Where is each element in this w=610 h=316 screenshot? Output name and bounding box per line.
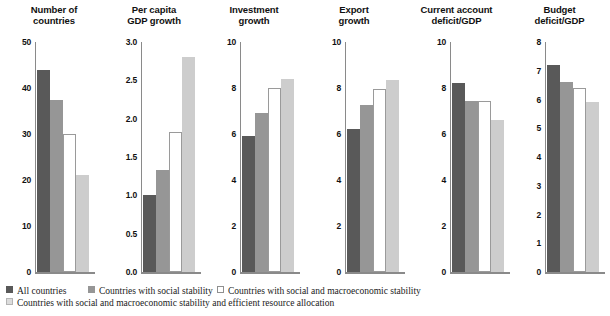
bar (76, 175, 89, 272)
y-axis-tick-label: 4 (315, 175, 341, 185)
bar (255, 113, 268, 272)
chart-panel: Exportgrowth0246810 (304, 0, 404, 280)
y-axis-tick-label: 2 (515, 210, 541, 220)
plot-area: 0246810 (204, 0, 304, 280)
legend-label: Countries with social and macroeconomic … (228, 285, 421, 297)
y-axis-tick-label: 20 (5, 175, 31, 185)
y-axis-tick-label: 40 (5, 83, 31, 93)
chart-panel: Current accountdeficit/GDP0246810 (404, 0, 509, 280)
legend-row: All countriesCountries with social stabi… (6, 284, 606, 296)
bar (452, 83, 465, 272)
y-axis-tick-label: 0.5 (111, 229, 137, 239)
bar (373, 89, 386, 272)
chart-panel: Per capitaGDP growth0.00.51.01.52.02.53.… (104, 0, 204, 280)
legend-item[interactable]: Countries with social stability (88, 284, 213, 297)
y-axis-tick-label: 30 (5, 129, 31, 139)
bar (560, 82, 573, 272)
legend-swatch-icon (6, 286, 13, 293)
plot-area: 0246810 (304, 0, 404, 280)
y-axis-tick-label: 2.5 (111, 75, 137, 85)
y-axis-tick-label: 0 (210, 267, 236, 277)
y-axis-tick-label: 10 (315, 37, 341, 47)
y-axis-tick-label: 5 (515, 123, 541, 133)
chart-panel: Investmentgrowth0246810 (204, 0, 304, 280)
legend-label: Countries with social stability (99, 285, 213, 297)
y-axis-tick-label: 6 (315, 129, 341, 139)
bar (491, 120, 504, 272)
bar (465, 101, 478, 272)
plot-area: 012345678 (509, 0, 610, 280)
bar (281, 79, 294, 272)
bar (547, 65, 560, 272)
bar (63, 134, 76, 272)
y-axis-tick-label: 0 (420, 267, 446, 277)
y-axis-tick-label: 8 (515, 37, 541, 47)
y-axis-tick-label: 3.0 (111, 37, 137, 47)
bar (268, 88, 281, 272)
y-axis-tick-label: 6 (210, 129, 236, 139)
y-axis-tick-label: 2.0 (111, 114, 137, 124)
y-axis-tick-label: 10 (210, 37, 236, 47)
y-axis-tick-label: 2 (315, 221, 341, 231)
bar (386, 80, 399, 272)
y-axis-tick-label: 0.0 (111, 267, 137, 277)
y-axis-tick-label: 10 (5, 221, 31, 231)
bar (586, 102, 599, 272)
y-axis-tick-label: 4 (420, 175, 446, 185)
x-axis-baseline (141, 272, 201, 274)
legend-item[interactable]: Countries with social and macroeconomic … (217, 284, 421, 297)
legend-swatch-icon (88, 286, 95, 293)
y-axis-tick-label: 6 (515, 95, 541, 105)
bar (242, 136, 255, 272)
plot-area: 01020304050 (4, 0, 104, 280)
bar (156, 170, 169, 272)
x-axis-baseline (545, 272, 605, 274)
bar (37, 70, 50, 272)
x-axis-baseline (345, 272, 405, 274)
y-axis-tick-label: 1 (515, 238, 541, 248)
chart-legend: All countriesCountries with social stabi… (6, 284, 606, 308)
y-axis-tick-label: 4 (515, 152, 541, 162)
y-axis-tick-label: 8 (210, 83, 236, 93)
bar (478, 101, 491, 272)
legend-item[interactable]: All countries (6, 284, 66, 297)
bar (169, 132, 182, 272)
y-axis-tick-label: 2 (210, 221, 236, 231)
legend-item[interactable]: Countries with social and macroeconomic … (6, 296, 334, 309)
y-axis-tick-label: 0 (515, 267, 541, 277)
y-axis-tick-label: 6 (420, 129, 446, 139)
legend-label: Countries with social and macroeconomic … (17, 297, 334, 309)
chart-panel: Budgetdeficit/GDP012345678 (509, 0, 610, 280)
plot-area: 0.00.51.01.52.02.53.0 (104, 0, 204, 280)
bar (573, 88, 586, 272)
bar (347, 129, 360, 272)
x-axis-baseline (240, 272, 300, 274)
y-axis-tick-label: 8 (420, 83, 446, 93)
y-axis-tick-label: 8 (315, 83, 341, 93)
legend-label: All countries (17, 285, 66, 297)
y-axis-tick-label: 10 (420, 37, 446, 47)
bar (182, 57, 195, 272)
y-axis-tick-label: 3 (515, 181, 541, 191)
y-axis-tick-label: 1.0 (111, 190, 137, 200)
y-axis-tick-label: 0 (5, 267, 31, 277)
x-axis-baseline (450, 272, 510, 274)
legend-row: Countries with social and macroeconomic … (6, 296, 606, 308)
legend-swatch-icon (6, 298, 13, 305)
bar (50, 100, 63, 273)
y-axis-tick-label: 4 (210, 175, 236, 185)
bar (360, 105, 373, 272)
plot-area: 0246810 (404, 0, 509, 280)
legend-swatch-icon (217, 286, 224, 293)
bar-chart-figure: Number ofcountries01020304050Per capitaG… (0, 0, 610, 316)
y-axis-tick-label: 7 (515, 66, 541, 76)
bar (143, 195, 156, 272)
chart-panel: Number ofcountries01020304050 (4, 0, 104, 280)
x-axis-baseline (35, 272, 95, 274)
y-axis-tick-label: 1.5 (111, 152, 137, 162)
y-axis-tick-label: 2 (420, 221, 446, 231)
y-axis-tick-label: 50 (5, 37, 31, 47)
y-axis-tick-label: 0 (315, 267, 341, 277)
